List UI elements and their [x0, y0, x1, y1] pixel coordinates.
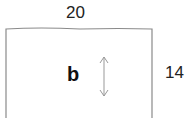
height-label: 14: [165, 64, 184, 81]
double-arrow-icon: [100, 57, 108, 96]
variable-label: b: [67, 64, 79, 84]
rectangle-drawing: [0, 0, 196, 118]
width-label: 20: [66, 4, 85, 21]
